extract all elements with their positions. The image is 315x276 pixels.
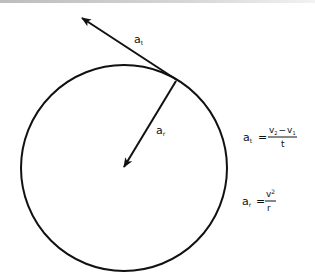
formula-equals: = bbox=[258, 131, 267, 144]
formula-numerator: v2 bbox=[266, 188, 275, 199]
radial-vector-label: ar bbox=[156, 124, 166, 137]
formula-denominator: r bbox=[267, 203, 271, 213]
formula-numerator: v2−v1 bbox=[269, 125, 296, 136]
formula-equals: = bbox=[256, 195, 265, 208]
formula-lhs: ar bbox=[242, 195, 252, 208]
tangential-acceleration-arrow bbox=[82, 18, 177, 80]
radial-acceleration-arrow bbox=[124, 81, 176, 167]
circular-path bbox=[21, 65, 227, 271]
formula-denominator: t bbox=[281, 139, 285, 149]
tangential-acceleration-formula: at = v2−v1 t bbox=[243, 125, 297, 149]
radial-acceleration-formula: ar = v2 r bbox=[242, 188, 276, 213]
diagram-canvas: at ar at = v2−v1 t ar = v2 r bbox=[0, 0, 315, 276]
formula-lhs: at bbox=[243, 131, 253, 144]
tangential-vector-label: at bbox=[134, 33, 144, 46]
